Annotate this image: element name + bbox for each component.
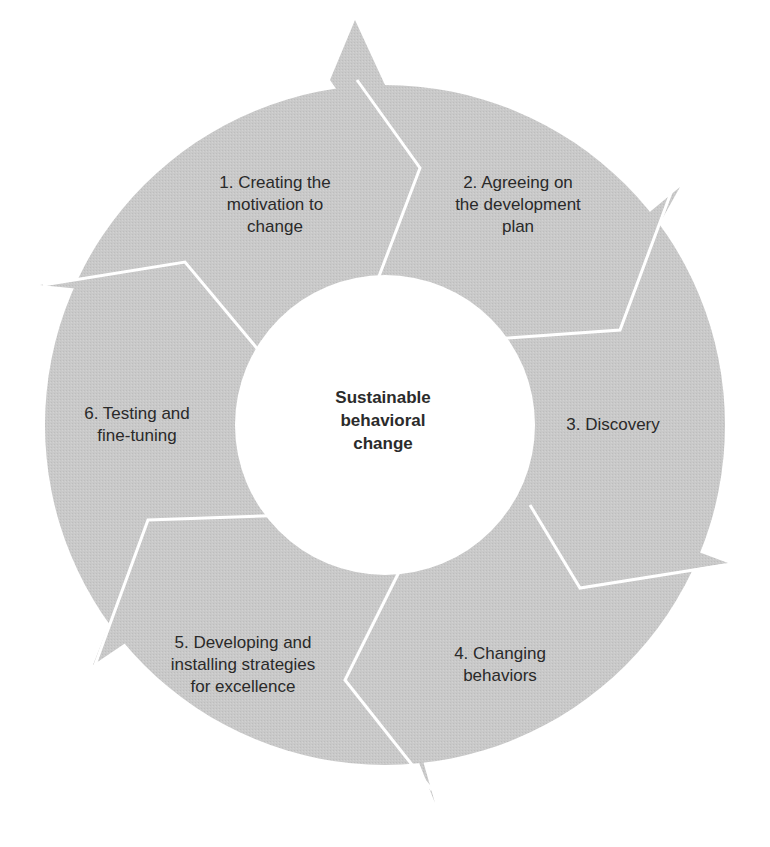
cycle-diagram: 1. Creating the motivation to change 2. … xyxy=(0,0,770,847)
step-2-label: 2. Agreeing on the development plan xyxy=(455,172,581,238)
step-3-label: 3. Discovery xyxy=(566,414,660,436)
step-1-label: 1. Creating the motivation to change xyxy=(219,172,331,238)
step-4-label: 4. Changing behaviors xyxy=(454,643,546,687)
step-6-label: 6. Testing and fine-tuning xyxy=(84,403,190,447)
step-5-label: 5. Developing and installing strategies … xyxy=(171,632,316,698)
center-label: Sustainable behavioral change xyxy=(335,386,430,455)
